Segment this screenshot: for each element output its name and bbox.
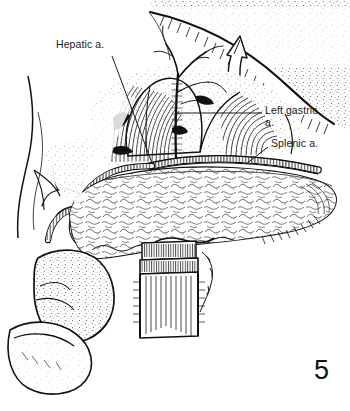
figure-plate: Hepatic a. Left gastrica. Splenic a. 5 [0,0,350,411]
label-hepatic-artery: Hepatic a. [56,38,104,50]
figure-number: 5 [314,355,329,385]
label-left-gastric-line2: a. [265,116,274,128]
label-splenic-artery: Splenic a. [271,137,318,149]
portal-vein-stump [133,241,213,338]
label-left-gastric-line1: Left gastric [265,104,318,116]
surgical-illustration-drawing [0,0,350,411]
label-left-gastric-artery: Left gastrica. [265,104,318,128]
